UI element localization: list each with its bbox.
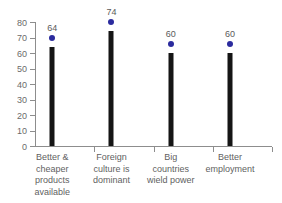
y-axis-tick: 40 — [30, 84, 35, 85]
data-point-marker — [168, 41, 174, 47]
y-axis-tick: 10 — [30, 131, 35, 132]
y-axis-line — [35, 22, 36, 146]
category-label-line: employment — [196, 164, 264, 176]
category-label-line: Foreign — [77, 152, 145, 164]
x-axis-tick — [272, 147, 273, 152]
data-value-label: 64 — [47, 24, 57, 33]
y-axis-tick-label: 10 — [17, 127, 27, 136]
y-axis-tick-label: 50 — [17, 65, 27, 74]
y-axis-tick-label: 70 — [17, 34, 27, 43]
category-label-line: dominant — [77, 175, 145, 187]
category-label-line: culture is — [77, 164, 145, 176]
y-axis-tick: 70 — [30, 38, 35, 39]
y-axis-tick-label: 60 — [17, 49, 27, 58]
bar-chart: 01020304050607080 64746060 Better &cheap… — [0, 0, 282, 203]
x-axis-category-label: Bigcountrieswield power — [137, 152, 205, 187]
y-axis-tick-label: 40 — [17, 80, 27, 89]
x-axis-category-label: Betteremployment — [196, 152, 264, 175]
category-label-line: countries — [137, 164, 205, 176]
x-axis-category-label: Better &cheaperproductsavailable — [18, 152, 86, 198]
data-value-label: 60 — [225, 30, 235, 39]
y-axis-tick-label: 20 — [17, 111, 27, 120]
bar — [109, 31, 114, 146]
y-axis-tick: 0 — [30, 146, 35, 147]
y-axis-tick: 80 — [30, 22, 35, 23]
category-label-line: available — [18, 187, 86, 199]
bar — [50, 47, 55, 146]
y-axis-tick: 20 — [30, 115, 35, 116]
data-point-marker — [49, 35, 55, 41]
x-axis-category-label: Foreignculture isdominant — [77, 152, 145, 187]
data-value-label: 60 — [166, 30, 176, 39]
category-label-line: Better — [196, 152, 264, 164]
y-axis-tick-label: 80 — [17, 18, 27, 27]
data-point-marker — [108, 19, 114, 25]
category-label-line: cheaper — [18, 164, 86, 176]
y-axis-tick-label: 0 — [22, 142, 27, 151]
y-axis-tick: 50 — [30, 69, 35, 70]
y-axis-tick: 30 — [30, 100, 35, 101]
category-label-line: wield power — [137, 175, 205, 187]
y-axis-tick: 60 — [30, 53, 35, 54]
category-label-line: Big — [137, 152, 205, 164]
category-label-line: Better & — [18, 152, 86, 164]
bar — [168, 53, 173, 146]
category-label-line: products — [18, 175, 86, 187]
data-value-label: 74 — [106, 8, 116, 17]
data-point-marker — [227, 41, 233, 47]
bar — [227, 53, 232, 146]
y-axis-tick-label: 30 — [17, 96, 27, 105]
